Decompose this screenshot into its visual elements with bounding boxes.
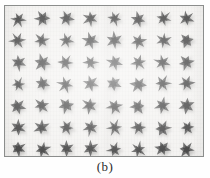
- particle-marker: [56, 53, 75, 72]
- particle-marker: [104, 74, 123, 93]
- particle-marker: [57, 139, 76, 157]
- particle-marker: [154, 31, 173, 50]
- particle-marker: [81, 31, 100, 50]
- particle-marker: [8, 31, 27, 50]
- particle-marker: [153, 53, 172, 72]
- particle-marker: [105, 97, 124, 116]
- particle-marker: [129, 75, 148, 94]
- particle-marker: [177, 9, 196, 28]
- particle-marker: [8, 97, 27, 116]
- figure-caption: (b): [0, 158, 210, 176]
- particle-marker: [32, 96, 51, 115]
- particle-marker: [105, 31, 124, 50]
- particle-marker: [81, 139, 100, 157]
- particle-marker: [57, 118, 76, 137]
- particle-marker: [153, 96, 172, 115]
- particle-marker: [33, 140, 52, 157]
- particle-marker: [105, 140, 124, 157]
- particle-marker: [105, 9, 124, 28]
- particle-marker: [57, 96, 76, 115]
- particle-marker: [105, 118, 124, 137]
- particle-marker: [81, 74, 100, 93]
- particle-marker: [128, 97, 147, 116]
- particle-marker: [105, 53, 124, 72]
- particle-marker: [9, 139, 28, 157]
- particle-marker: [81, 118, 100, 137]
- particle-marker: [177, 74, 196, 93]
- particle-marker: [154, 9, 173, 28]
- particle-array: [5, 6, 203, 156]
- particle-marker: [9, 75, 28, 94]
- particle-marker: [129, 10, 148, 29]
- micrograph-image: [4, 5, 204, 157]
- particle-marker: [177, 140, 196, 157]
- particle-marker: [33, 53, 52, 72]
- particle-marker: [32, 118, 51, 137]
- particle-marker: [9, 10, 28, 29]
- particle-marker: [178, 118, 197, 137]
- particle-marker: [129, 32, 148, 51]
- particle-marker: [80, 96, 99, 115]
- particle-marker: [177, 96, 196, 115]
- particle-marker: [153, 74, 172, 93]
- particle-marker: [9, 118, 28, 137]
- particle-marker: [129, 118, 148, 137]
- particle-marker: [153, 139, 172, 157]
- particle-marker: [32, 31, 51, 50]
- particle-marker: [56, 75, 75, 94]
- particle-marker: [81, 9, 100, 28]
- particle-marker: [81, 53, 100, 72]
- particle-marker: [129, 140, 148, 157]
- particle-marker: [129, 53, 148, 72]
- particle-marker: [9, 53, 28, 72]
- particle-marker: [57, 9, 76, 28]
- particle-marker: [33, 9, 52, 28]
- particle-marker: [57, 31, 76, 50]
- particle-marker: [33, 74, 52, 93]
- particle-marker: [177, 53, 196, 72]
- particle-marker: [177, 31, 196, 50]
- figure-panel-b: (b): [0, 0, 210, 178]
- particle-marker: [153, 119, 172, 138]
